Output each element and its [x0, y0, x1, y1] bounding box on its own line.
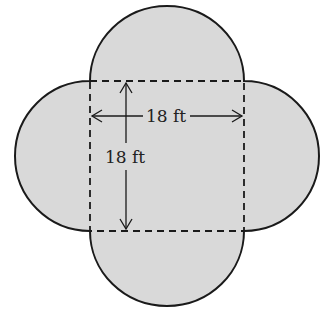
- shape-outline: [15, 6, 319, 306]
- figure: 18 ft 18 ft: [0, 0, 324, 314]
- height-label: 18 ft: [105, 147, 145, 167]
- width-label: 18 ft: [146, 106, 186, 126]
